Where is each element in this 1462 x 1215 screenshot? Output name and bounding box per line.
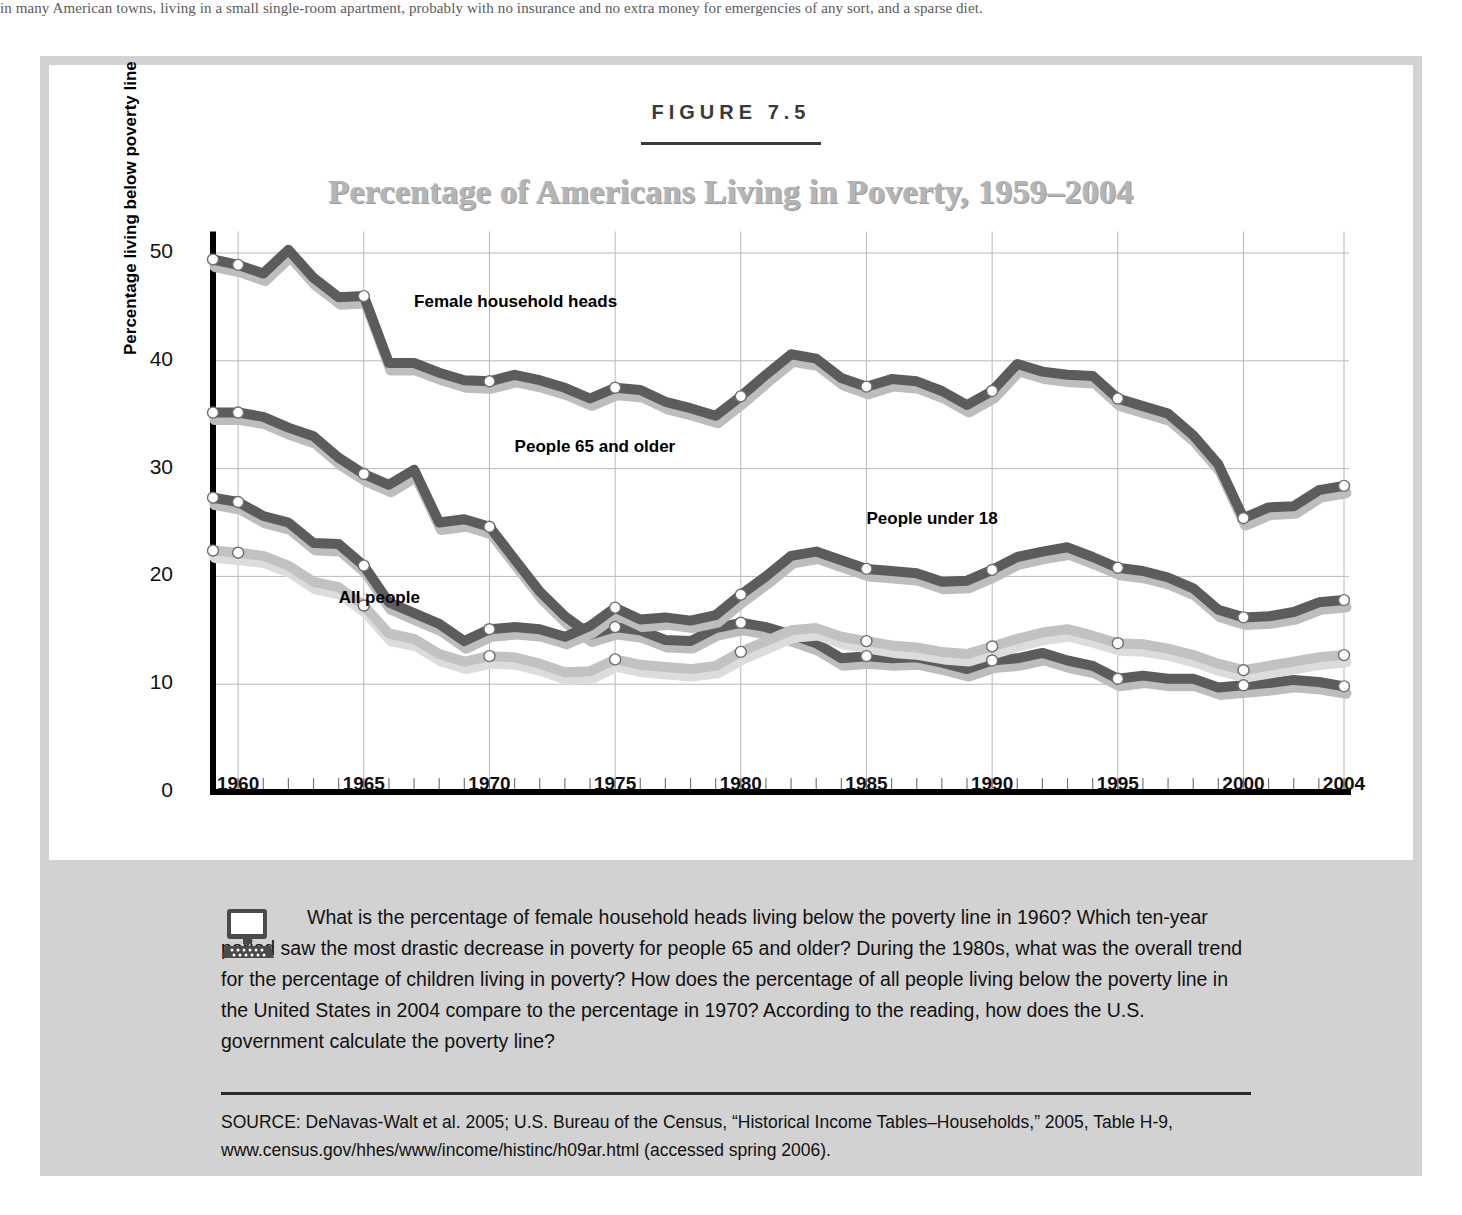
data-point-marker	[484, 651, 495, 662]
series-inline-label: Female household heads	[414, 292, 617, 312]
data-point-marker	[610, 382, 621, 393]
data-point-marker	[358, 560, 369, 571]
caption-block: What is the percentage of female househo…	[221, 902, 1251, 1057]
poverty-line-chart: Percentage living below poverty line 010…	[49, 65, 1431, 855]
data-point-marker	[233, 407, 244, 418]
data-point-marker	[208, 492, 219, 503]
caption-question-text: What is the percentage of female househo…	[221, 902, 1251, 1057]
x-axis-tick-label: 1965	[343, 773, 385, 795]
data-point-marker	[861, 563, 872, 574]
series-inline-label: All people	[339, 588, 420, 608]
data-point-marker	[1339, 595, 1350, 606]
data-point-marker	[233, 547, 244, 558]
data-point-marker	[861, 381, 872, 392]
x-axis-tick-label: 1970	[468, 773, 510, 795]
data-point-marker	[987, 655, 998, 666]
data-point-marker	[1339, 650, 1350, 661]
chart-plot-svg	[49, 65, 1431, 855]
data-point-marker	[861, 651, 872, 662]
y-axis-tick-label: 50	[127, 239, 173, 263]
data-point-marker	[735, 391, 746, 402]
data-point-marker	[1238, 680, 1249, 691]
data-point-marker	[1238, 665, 1249, 676]
data-point-marker	[610, 654, 621, 665]
data-point-marker	[987, 564, 998, 575]
data-point-marker	[735, 617, 746, 628]
data-point-marker	[610, 622, 621, 633]
x-axis-tick-label: 1985	[845, 773, 887, 795]
data-point-marker	[1112, 638, 1123, 649]
data-point-marker	[484, 376, 495, 387]
data-point-marker	[1112, 562, 1123, 573]
running-text: in many American towns, living in a smal…	[0, 0, 1462, 22]
data-point-marker	[1112, 673, 1123, 684]
data-point-marker	[233, 259, 244, 270]
figure-frame: FIGURE 7.5 Percentage of Americans Livin…	[40, 56, 1422, 1176]
figure-page: in many American towns, living in a smal…	[0, 0, 1462, 1215]
source-note: SOURCE: DeNavas-Walt et al. 2005; U.S. B…	[221, 1108, 1281, 1164]
caption-band: What is the percentage of female househo…	[49, 860, 1413, 1167]
data-point-marker	[208, 545, 219, 556]
data-point-marker	[1238, 513, 1249, 524]
x-axis-tick-label: 1995	[1097, 773, 1139, 795]
data-point-marker	[208, 254, 219, 265]
x-axis-ticks: 1960196519701975198019851990199520002004	[49, 773, 1431, 803]
source-divider-rule	[221, 1092, 1251, 1095]
computer-monitor-icon	[221, 908, 275, 960]
data-point-marker	[610, 602, 621, 613]
data-point-marker	[861, 636, 872, 647]
y-axis-tick-label: 10	[127, 670, 173, 694]
x-axis-tick-label: 1990	[971, 773, 1013, 795]
x-axis-tick-label: 2004	[1323, 773, 1365, 795]
data-point-marker	[484, 624, 495, 635]
data-point-marker	[1339, 681, 1350, 692]
data-point-marker	[987, 385, 998, 396]
data-point-marker	[358, 468, 369, 479]
y-axis-tick-label: 20	[127, 562, 173, 586]
y-axis-tick-label: 40	[127, 347, 173, 371]
x-axis-tick-label: 1975	[594, 773, 636, 795]
data-point-marker	[358, 291, 369, 302]
x-axis-tick-label: 2000	[1222, 773, 1264, 795]
data-point-marker	[1238, 612, 1249, 623]
data-point-marker	[1112, 393, 1123, 404]
x-axis-tick-label: 1960	[217, 773, 259, 795]
data-point-marker	[233, 497, 244, 508]
y-axis-ticks: 01020304050	[127, 65, 173, 855]
y-axis-tick-label: 30	[127, 455, 173, 479]
data-point-marker	[987, 641, 998, 652]
series-inline-label: People 65 and older	[515, 437, 676, 457]
series-inline-label: People under 18	[866, 509, 997, 529]
data-point-marker	[735, 646, 746, 657]
data-point-marker	[735, 589, 746, 600]
data-point-marker	[484, 521, 495, 532]
x-axis-tick-label: 1980	[720, 773, 762, 795]
data-point-marker	[1339, 480, 1350, 491]
data-point-marker	[208, 407, 219, 418]
